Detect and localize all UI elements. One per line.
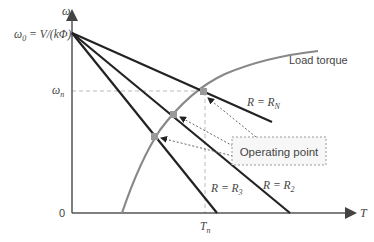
x-axis-label: T xyxy=(360,206,368,220)
line-r-2 xyxy=(72,33,290,213)
callout-arrow-r3 xyxy=(161,138,233,156)
operating-point-rn xyxy=(200,88,207,95)
operating-point-label: Operating point xyxy=(240,146,319,158)
tn-label: Tn xyxy=(200,220,210,235)
label-r-n: R = RN xyxy=(246,96,281,111)
y-axis-label: ω xyxy=(62,4,70,18)
operating-point-r3 xyxy=(151,133,158,140)
label-r-3: R = R3 xyxy=(210,182,243,197)
origin-label: 0 xyxy=(59,207,65,219)
callout-arrow-r2 xyxy=(180,117,233,146)
line-r-n xyxy=(72,33,272,122)
line-r-3 xyxy=(72,33,217,213)
omega0-label: ω0 = V/(kΦ) xyxy=(14,28,72,43)
operating-point-r2 xyxy=(170,111,177,118)
label-r-2: R = R2 xyxy=(262,179,295,194)
speed-torque-diagram: Operating point ω T 0 ω0 = V/(kΦ) ωn Tn … xyxy=(0,0,374,242)
load-torque-label: Load torque xyxy=(289,54,348,66)
omega-n-label: ωn xyxy=(52,84,64,99)
